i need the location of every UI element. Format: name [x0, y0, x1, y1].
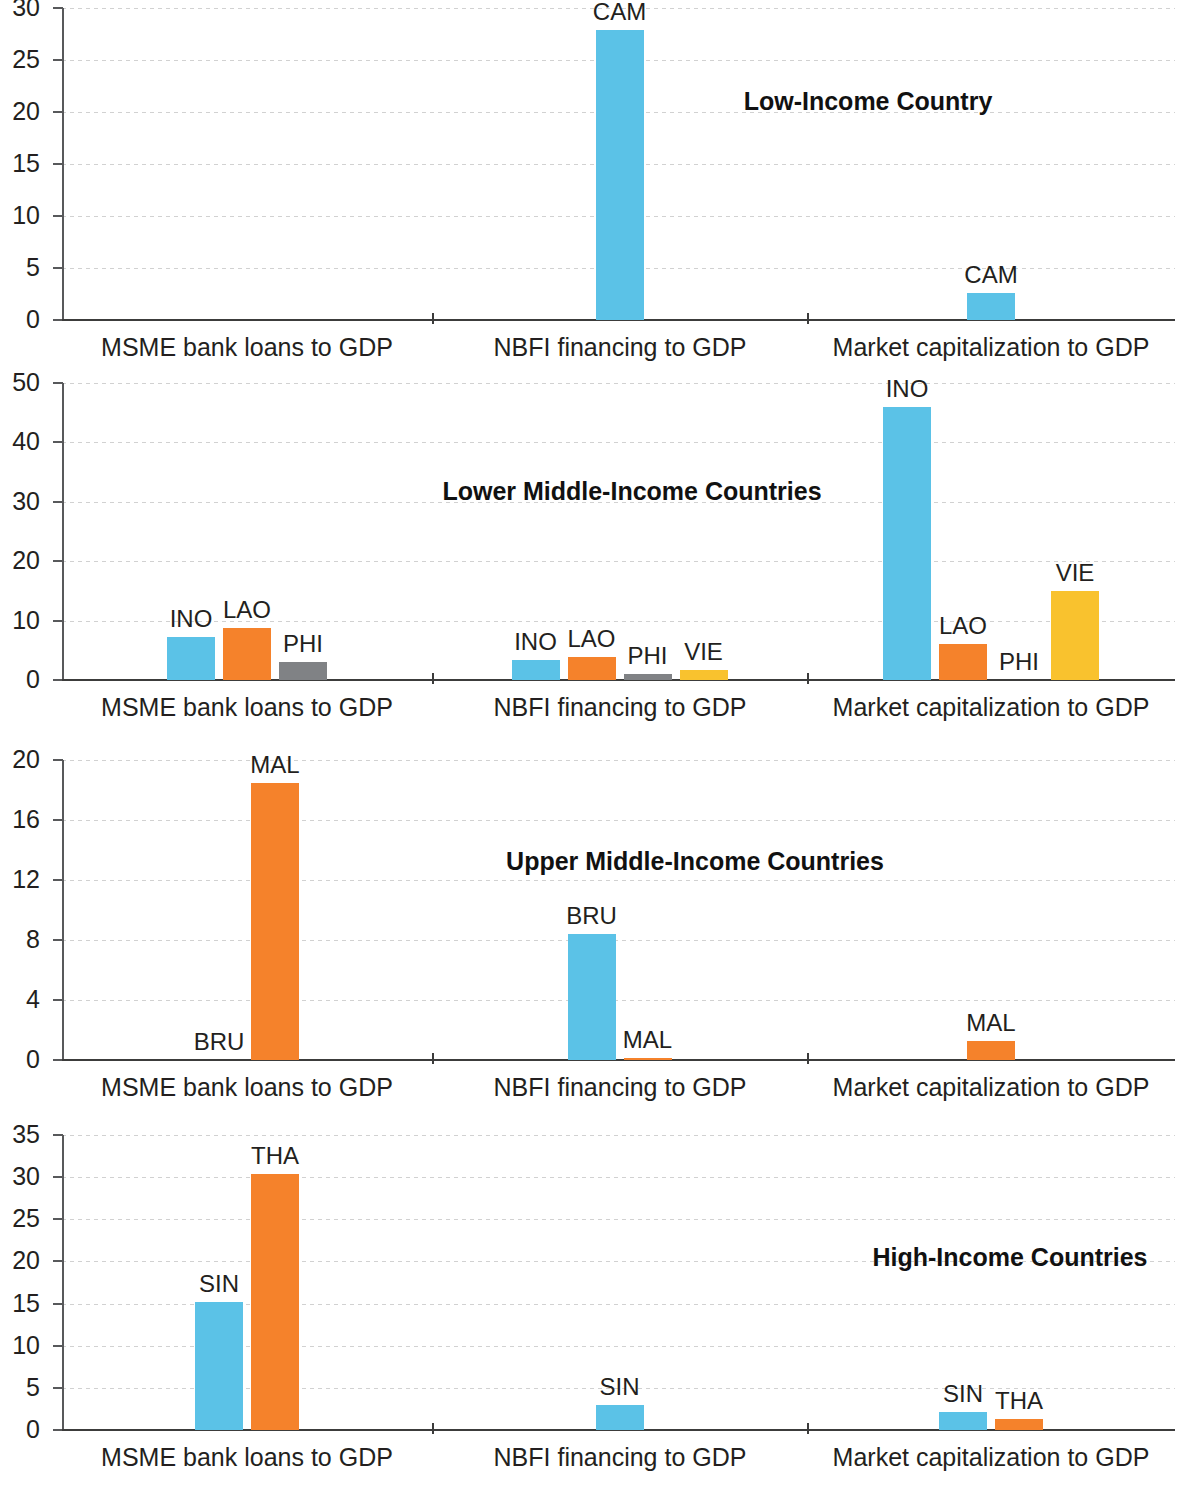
- bar-value-label: PHI: [263, 632, 343, 656]
- chart-panel-2: [0, 383, 1183, 742]
- gridline: [62, 940, 1175, 941]
- bar-cam: [596, 30, 644, 320]
- y-axis: [62, 1135, 64, 1430]
- bar-sin: [939, 1412, 987, 1430]
- bar-phi: [279, 662, 327, 680]
- y-axis: [62, 8, 64, 320]
- x-axis-separator: [807, 1423, 809, 1434]
- y-tick-label: 10: [0, 1333, 40, 1358]
- bar-value-label: THA: [979, 1389, 1059, 1413]
- panel-title: Lower Middle-Income Countries: [0, 478, 1183, 504]
- gridline: [62, 1000, 1175, 1001]
- x-axis-separator: [432, 1423, 434, 1434]
- y-tick-label: 25: [0, 1206, 40, 1231]
- y-tick-label: 15: [0, 1291, 40, 1316]
- figure-root: 051015202530CAMCAMMSME bank loans to GDP…: [0, 0, 1183, 1485]
- gridline: [62, 1219, 1175, 1220]
- y-tick-label: 20: [0, 747, 40, 772]
- gridline: [62, 383, 1175, 384]
- gridline: [62, 1135, 1175, 1136]
- x-axis-separator: [807, 1053, 809, 1064]
- y-tick-label: 0: [0, 1417, 40, 1442]
- bar-cam: [967, 293, 1015, 320]
- y-tick-label: 25: [0, 47, 40, 72]
- panel-title: High-Income Countries: [0, 1244, 1183, 1270]
- y-axis: [62, 760, 64, 1060]
- bar-ino: [512, 660, 560, 680]
- x-axis-category-label: Market capitalization to GDP: [771, 694, 1183, 720]
- x-axis-category-label: Market capitalization to GDP: [771, 1074, 1183, 1100]
- panel-title: Low-Income Country: [0, 88, 1183, 114]
- gridline: [62, 1177, 1175, 1178]
- x-axis-separator: [807, 313, 809, 324]
- x-axis-separator: [432, 673, 434, 684]
- y-tick-label: 15: [0, 151, 40, 176]
- panel-title: Upper Middle-Income Countries: [0, 848, 1183, 874]
- y-tick-label: 5: [0, 1375, 40, 1400]
- y-tick-label: 10: [0, 608, 40, 633]
- bar-value-label: THA: [235, 1144, 315, 1168]
- gridline: [62, 442, 1175, 443]
- bar-tha: [251, 1174, 299, 1430]
- bar-value-label: PHI: [979, 650, 1059, 674]
- bar-value-label: SIN: [580, 1375, 660, 1399]
- bar-value-label: SIN: [179, 1272, 259, 1296]
- bar-mal: [624, 1058, 672, 1060]
- bar-mal: [251, 783, 299, 1061]
- bar-value-label: BRU: [179, 1030, 259, 1054]
- gridline: [62, 880, 1175, 881]
- y-tick-label: 16: [0, 807, 40, 832]
- y-tick-label: 30: [0, 1164, 40, 1189]
- y-tick-label: 35: [0, 1122, 40, 1147]
- bar-mal: [967, 1041, 1015, 1061]
- chart-panel-4: [0, 1135, 1183, 1485]
- y-tick-label: 40: [0, 429, 40, 454]
- x-axis-category-label: Market capitalization to GDP: [771, 334, 1183, 360]
- x-axis-separator: [432, 1053, 434, 1064]
- gridline: [62, 820, 1175, 821]
- chart-panel-3: [0, 760, 1183, 1122]
- bar-ino: [883, 407, 931, 680]
- bar-value-label: MAL: [235, 753, 315, 777]
- x-axis-category-label: Market capitalization to GDP: [771, 1444, 1183, 1470]
- bar-value-label: BRU: [552, 904, 632, 928]
- bar-sin: [195, 1302, 243, 1430]
- y-tick-label: 10: [0, 203, 40, 228]
- y-axis: [62, 383, 64, 680]
- y-tick-label: 4: [0, 987, 40, 1012]
- gridline: [62, 760, 1175, 761]
- bar-value-label: LAO: [923, 614, 1003, 638]
- bar-ino: [167, 637, 215, 680]
- y-tick-label: 20: [0, 548, 40, 573]
- x-axis-separator: [432, 313, 434, 324]
- x-axis-separator: [807, 673, 809, 684]
- y-tick-label: 0: [0, 1047, 40, 1072]
- bar-sin: [596, 1405, 644, 1430]
- bar-phi: [624, 674, 672, 680]
- y-tick-label: 50: [0, 370, 40, 395]
- y-tick-label: 5: [0, 255, 40, 280]
- bar-value-label: INO: [867, 377, 947, 401]
- gridline: [62, 561, 1175, 562]
- bar-vie: [680, 670, 728, 680]
- chart-panel-1: [0, 8, 1183, 382]
- bar-value-label: VIE: [664, 640, 744, 664]
- y-tick-label: 30: [0, 0, 40, 20]
- bar-value-label: CAM: [951, 263, 1031, 287]
- y-tick-label: 0: [0, 667, 40, 692]
- y-tick-label: 0: [0, 307, 40, 332]
- bar-value-label: VIE: [1035, 561, 1115, 585]
- y-tick-label: 8: [0, 927, 40, 952]
- bar-tha: [995, 1419, 1043, 1430]
- bar-value-label: LAO: [207, 598, 287, 622]
- bar-value-label: MAL: [951, 1011, 1031, 1035]
- bar-value-label: MAL: [608, 1028, 688, 1052]
- bar-value-label: CAM: [580, 0, 660, 24]
